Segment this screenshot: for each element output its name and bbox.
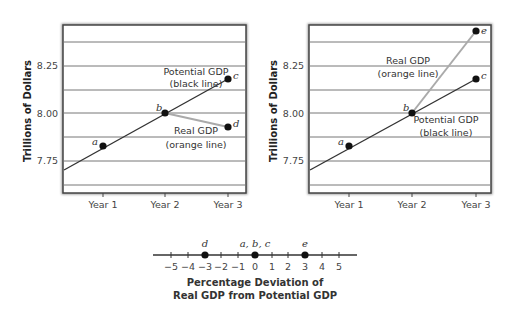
right-label-c: c [481, 70, 487, 81]
left-ytick-775: 7.75 [37, 155, 58, 166]
right-label-e: e [481, 25, 487, 36]
nl-tick-5: 5 [336, 261, 342, 272]
right-ytick-825: 8.25 [283, 60, 304, 71]
left-xtick-year2: Year 2 [149, 199, 179, 210]
nl-tick-4: 4 [319, 261, 325, 272]
nl-point-abc [251, 251, 258, 258]
right-ann-real-1: Real GDP [386, 55, 430, 66]
right-ann-potential-2: (black line) [420, 127, 473, 138]
right-xtick-year1: Year 1 [333, 199, 363, 210]
left-xtick-year3: Year 3 [212, 199, 242, 210]
left-ytick-800: 8.00 [37, 108, 58, 119]
point-a [99, 142, 106, 149]
nl-label-d: d [202, 238, 208, 249]
right-ylabel: Trillions of Dollars [268, 60, 279, 162]
nl-title-1: Percentage Deviation of [187, 277, 324, 288]
nl-tick-m3: −3 [198, 261, 212, 272]
left-ann-real-1: Real GDP [174, 125, 218, 136]
left-label-a: a [92, 136, 98, 147]
right-ytick-800: 8.00 [283, 108, 304, 119]
right-label-a: a [338, 136, 344, 147]
point-e [472, 27, 479, 34]
right-ytick-775: 7.75 [283, 155, 304, 166]
point-d [224, 123, 231, 130]
nl-tick-2: 2 [285, 261, 291, 272]
left-ytick-825: 8.25 [37, 60, 58, 71]
right-ann-real-2: (orange line) [377, 68, 438, 79]
right-ann-potential-1: Potential GDP [413, 114, 478, 125]
left-ann-real-2: (orange line) [165, 139, 226, 150]
point-c [472, 75, 479, 82]
nl-label-e: e [302, 238, 308, 249]
left-ann-potential-1: Potential GDP [163, 66, 228, 77]
nl-tick-0: 0 [252, 261, 258, 272]
right-label-b: b [403, 102, 409, 113]
right-xtick-year2: Year 2 [396, 199, 426, 210]
point-b [161, 109, 168, 116]
nl-tick-m4: −4 [181, 261, 195, 272]
nl-point-d [201, 251, 208, 258]
left-ylabel: Trillions of Dollars [22, 60, 33, 162]
left-label-d: d [233, 118, 239, 129]
nl-tick-m5: −5 [164, 261, 178, 272]
nl-tick-3: 3 [302, 261, 308, 272]
left-chart: 8.25 8.00 7.75 Trillions of Dollars Year… [22, 25, 246, 210]
left-label-b: b [156, 102, 162, 113]
figure: 8.25 8.00 7.75 Trillions of Dollars Year… [0, 0, 517, 314]
nl-label-abc: a, b, c [240, 238, 271, 249]
right-chart: 8.25 8.00 7.75 Trillions of Dollars Year… [268, 25, 491, 210]
nl-tick-m1: −1 [231, 261, 245, 272]
nl-tick-m2: −2 [214, 261, 228, 272]
left-label-c: c [233, 70, 239, 81]
number-line: −5 −4 −3 −2 −1 0 1 2 3 4 5 d a, b, c e P… [153, 238, 357, 301]
nl-point-e [301, 251, 308, 258]
point-a [345, 142, 352, 149]
right-plot-frame [309, 25, 491, 193]
left-xtick-year1: Year 1 [87, 199, 117, 210]
nl-tick-1: 1 [269, 261, 275, 272]
left-ann-potential-2: (black line) [170, 78, 223, 89]
right-xtick-year3: Year 3 [460, 199, 490, 210]
nl-title-2: Real GDP from Potential GDP [173, 290, 337, 301]
left-plot-frame [63, 25, 246, 193]
